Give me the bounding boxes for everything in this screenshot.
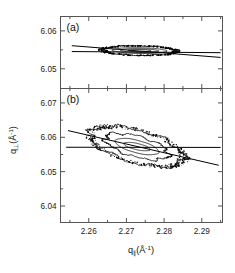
contour-speckle-b <box>125 127 126 128</box>
contour-speckle-a <box>172 48 173 49</box>
contour-speckle-a <box>147 54 148 55</box>
contour-speckle-b <box>161 165 162 166</box>
contour-speckle-b <box>141 164 143 166</box>
contour-speckle-b <box>172 145 173 146</box>
contour-speckle-a <box>155 54 156 55</box>
contour-speckle-a <box>161 47 162 48</box>
contour-speckle-b <box>100 149 101 150</box>
contour-speckle-a <box>98 49 99 50</box>
contour-speckle-b <box>97 126 98 127</box>
contour-speckle-a <box>113 46 114 47</box>
contour-speckle-b <box>170 165 171 166</box>
y-tick-label-b-1: 6.05 <box>41 168 57 177</box>
contour-speckle-b <box>104 149 105 150</box>
contour-speckle-b <box>155 135 157 137</box>
contour-speckle-b <box>180 153 181 154</box>
contour-speckle-a <box>106 46 107 47</box>
contour-speckle-b <box>114 156 115 157</box>
contour-speckle-a <box>151 45 152 46</box>
contour-speckle-b <box>103 150 104 151</box>
contour-speckle-b <box>103 125 104 126</box>
contour-speckle-b <box>183 161 184 162</box>
contour-speckle-b <box>156 165 158 167</box>
contour-speckle-b <box>100 129 101 130</box>
contour-speckle-b <box>112 155 113 156</box>
contour-speckle-b <box>178 152 179 153</box>
contour-speckle-b <box>118 156 119 157</box>
contour-speckle-a <box>118 54 119 55</box>
contour-speckle-b <box>92 131 93 132</box>
contour-speckle-b <box>120 125 121 126</box>
contour-speckle-b <box>106 152 107 153</box>
contour-speckle-a <box>172 50 173 51</box>
contour-speckle-a <box>118 46 119 47</box>
contour-speckle-b <box>171 164 172 165</box>
contour-speckle-b <box>105 152 106 153</box>
contour-speckle-b <box>164 139 165 140</box>
contour-speckle-b <box>93 129 94 130</box>
contour-speckle-b <box>183 159 184 160</box>
contour-speckle-b <box>127 128 128 129</box>
contour-speckle-b <box>151 135 153 137</box>
contour-speckle-b <box>121 158 123 160</box>
contour-speckle-b <box>88 139 89 140</box>
contour-speckle-b <box>104 124 105 125</box>
contour-speckle-b <box>126 160 127 161</box>
contour-speckle-b <box>180 161 181 162</box>
contour-speckle-b <box>183 150 184 151</box>
contour-speckle-b <box>90 139 91 140</box>
contour-speckle-b <box>157 137 158 138</box>
contour-speckle-a <box>128 46 129 47</box>
contour-speckle-b <box>169 144 170 145</box>
contour-speckle-a <box>123 54 125 56</box>
contour-speckle-b <box>145 132 146 133</box>
contour-speckle-a <box>148 46 149 47</box>
contour-speckle-b <box>134 161 135 162</box>
contour-speckle-b <box>95 140 96 141</box>
contour-speckle-b <box>168 141 170 143</box>
contour-speckle-b <box>167 166 168 167</box>
contour-speckle-a <box>122 45 123 46</box>
contour-speckle-b <box>172 142 173 143</box>
contour-speckle-b <box>133 127 134 128</box>
contour-speckle-a <box>161 54 162 55</box>
contour-speckle-a <box>121 54 122 55</box>
contour-speckle-a <box>116 46 117 47</box>
contour-speckle-b <box>169 164 170 165</box>
contour-speckle-b <box>146 131 147 132</box>
contour-speckle-b <box>105 150 106 151</box>
contour-speckle-b <box>149 131 150 132</box>
contour-speckle-b <box>109 153 110 154</box>
contour-speckle-b <box>175 164 176 165</box>
contour-speckle-b <box>96 142 97 143</box>
contour-speckle-b <box>182 160 184 162</box>
contour-speckle-b <box>151 165 152 166</box>
contour-speckle-b <box>96 145 97 146</box>
contour-speckle-b <box>176 167 177 168</box>
contour-speckle-b <box>108 151 109 152</box>
contour-speckle-a <box>149 55 150 56</box>
contour-speckle-b <box>142 129 144 131</box>
contour-speckle-b <box>93 134 94 135</box>
contour-speckle-a <box>146 55 147 56</box>
contour-speckle-b <box>115 154 116 155</box>
contour-speckle-b <box>165 167 166 168</box>
contour-speckle-a <box>127 46 128 47</box>
contour-speckle-a <box>111 47 112 48</box>
contour-speckle-b <box>97 128 99 130</box>
contour-speckle-a <box>134 55 135 56</box>
contour-speckle-a <box>130 55 132 57</box>
contour-speckle-a <box>166 54 167 55</box>
contour-speckle-b <box>188 159 189 160</box>
contour-speckle-b <box>178 163 179 164</box>
contour-speckle-b <box>107 124 108 125</box>
contour-speckle-b <box>120 126 122 128</box>
contour-speckle-b <box>126 126 127 127</box>
y-axis-label: q⊥(Å-1) <box>7 126 19 154</box>
contour-speckle-b <box>179 154 181 156</box>
y-tick-label-b-0: 6.04 <box>41 202 57 211</box>
contour-speckle-a <box>169 48 171 50</box>
contour-speckle-b <box>102 127 103 128</box>
contour-speckle-b <box>139 165 140 166</box>
contour-speckle-a <box>175 50 176 51</box>
